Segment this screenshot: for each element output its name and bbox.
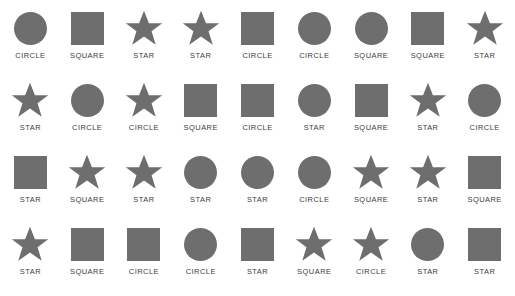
shape-label: CIRCLE bbox=[299, 195, 329, 205]
circle-icon bbox=[71, 78, 104, 122]
shape-cell: CIRCLE bbox=[59, 78, 116, 150]
shape-cell: SQUARE bbox=[399, 6, 456, 78]
shape-label: STAR bbox=[20, 123, 41, 133]
shape-label: STAR bbox=[133, 51, 154, 61]
shape-cell: SQUARE bbox=[59, 222, 116, 294]
square-icon bbox=[241, 222, 274, 266]
shape-cell: SQUARE bbox=[343, 78, 400, 150]
shape-label: CIRCLE bbox=[470, 123, 500, 133]
shape-cell: CIRCLE bbox=[456, 78, 513, 150]
shape-cell: CIRCLE bbox=[229, 6, 286, 78]
shape-cell: CIRCLE bbox=[116, 78, 173, 150]
shape-cell: CIRCLE bbox=[2, 6, 59, 78]
shape-cell: CIRCLE bbox=[286, 150, 343, 222]
star-icon bbox=[182, 6, 220, 50]
shape-cell: CIRCLE bbox=[229, 78, 286, 150]
square-icon bbox=[411, 6, 444, 50]
shape-label: SQUARE bbox=[70, 267, 104, 277]
shape-label: SQUARE bbox=[411, 51, 445, 61]
shape-label: SQUARE bbox=[354, 123, 388, 133]
shape-label: CIRCLE bbox=[72, 123, 102, 133]
shape-label: STAR bbox=[304, 123, 325, 133]
shape-label: CIRCLE bbox=[129, 123, 159, 133]
shape-cell: STAR bbox=[172, 6, 229, 78]
shape-cell: STAR bbox=[2, 222, 59, 294]
shape-label: STAR bbox=[417, 123, 438, 133]
shape-label: CIRCLE bbox=[299, 51, 329, 61]
shape-row: STARCIRCLECIRCLESQUARECIRCLESTARSQUAREST… bbox=[2, 78, 513, 150]
star-icon bbox=[125, 78, 163, 122]
circle-icon bbox=[468, 78, 501, 122]
square-icon bbox=[71, 222, 104, 266]
shape-label: STAR bbox=[474, 51, 495, 61]
square-icon bbox=[184, 78, 217, 122]
shape-label: SQUARE bbox=[70, 51, 104, 61]
circle-icon bbox=[298, 78, 331, 122]
square-icon bbox=[127, 222, 160, 266]
shape-label: SQUARE bbox=[354, 51, 388, 61]
shape-cell: CIRCLE bbox=[172, 222, 229, 294]
shape-cell: SQUARE bbox=[343, 6, 400, 78]
shape-cell: SQUARE bbox=[172, 78, 229, 150]
shape-label: STAR bbox=[133, 195, 154, 205]
square-icon bbox=[14, 150, 47, 194]
star-icon bbox=[68, 150, 106, 194]
shape-cell: CIRCLE bbox=[286, 6, 343, 78]
shape-label: CIRCLE bbox=[242, 51, 272, 61]
circle-icon bbox=[298, 150, 331, 194]
shape-cell: STAR bbox=[172, 150, 229, 222]
shape-cell: STAR bbox=[399, 222, 456, 294]
shape-cell: SQUARE bbox=[343, 150, 400, 222]
shape-cell: STAR bbox=[2, 150, 59, 222]
shape-cell: SQUARE bbox=[59, 150, 116, 222]
shape-cell: STAR bbox=[286, 78, 343, 150]
star-icon bbox=[409, 78, 447, 122]
star-icon bbox=[11, 222, 49, 266]
shape-cell: STAR bbox=[116, 6, 173, 78]
shape-cell: STAR bbox=[116, 150, 173, 222]
square-icon bbox=[71, 6, 104, 50]
shape-label: CIRCLE bbox=[186, 267, 216, 277]
shape-label: STAR bbox=[474, 267, 495, 277]
shape-label: CIRCLE bbox=[242, 123, 272, 133]
circle-icon bbox=[184, 150, 217, 194]
star-icon bbox=[466, 6, 504, 50]
circle-icon bbox=[14, 6, 47, 50]
star-icon bbox=[409, 150, 447, 194]
shape-label: CIRCLE bbox=[129, 267, 159, 277]
star-icon bbox=[11, 78, 49, 122]
shape-cell: CIRCLE bbox=[343, 222, 400, 294]
shape-cell: STAR bbox=[399, 150, 456, 222]
shape-cell: STAR bbox=[456, 222, 513, 294]
square-icon bbox=[241, 6, 274, 50]
shape-label: STAR bbox=[247, 195, 268, 205]
shape-cell: STAR bbox=[2, 78, 59, 150]
shape-label: CIRCLE bbox=[15, 51, 45, 61]
square-icon bbox=[241, 78, 274, 122]
shape-cell: STAR bbox=[229, 222, 286, 294]
circle-icon bbox=[411, 222, 444, 266]
star-icon bbox=[295, 222, 333, 266]
shape-cell: SQUARE bbox=[456, 150, 513, 222]
square-icon bbox=[355, 78, 388, 122]
shape-label-grid: CIRCLESQUARESTARSTARCIRCLECIRCLESQUARESQ… bbox=[0, 0, 515, 296]
shape-cell: STAR bbox=[399, 78, 456, 150]
shape-label: STAR bbox=[20, 267, 41, 277]
shape-cell: CIRCLE bbox=[116, 222, 173, 294]
star-icon bbox=[125, 150, 163, 194]
shape-cell: STAR bbox=[229, 150, 286, 222]
shape-cell: STAR bbox=[456, 6, 513, 78]
shape-row: STARSQUARESTARSTARSTARCIRCLESQUARESTARSQ… bbox=[2, 150, 513, 222]
shape-label: SQUARE bbox=[297, 267, 331, 277]
star-icon bbox=[352, 222, 390, 266]
circle-icon bbox=[298, 6, 331, 50]
shape-label: STAR bbox=[190, 51, 211, 61]
shape-label: STAR bbox=[190, 195, 211, 205]
shape-label: SQUARE bbox=[70, 195, 104, 205]
shape-row: STARSQUARECIRCLECIRCLESTARSQUARECIRCLEST… bbox=[2, 222, 513, 294]
shape-label: SQUARE bbox=[184, 123, 218, 133]
star-icon bbox=[352, 150, 390, 194]
circle-icon bbox=[241, 150, 274, 194]
shape-label: CIRCLE bbox=[356, 267, 386, 277]
circle-icon bbox=[355, 6, 388, 50]
